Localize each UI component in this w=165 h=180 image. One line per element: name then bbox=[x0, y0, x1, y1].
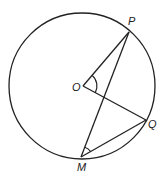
label-o: O bbox=[72, 81, 81, 93]
label-p: P bbox=[128, 15, 136, 27]
angle-arc-pmq bbox=[85, 147, 91, 151]
segment-op bbox=[83, 32, 129, 86]
label-m: M bbox=[77, 161, 87, 173]
segment-oq bbox=[83, 86, 146, 120]
circle bbox=[9, 13, 155, 159]
segment-mp bbox=[81, 32, 129, 157]
label-q: Q bbox=[148, 118, 157, 130]
circle-diagram: P O Q M bbox=[0, 0, 165, 180]
angle-arc-poq bbox=[92, 75, 97, 92]
